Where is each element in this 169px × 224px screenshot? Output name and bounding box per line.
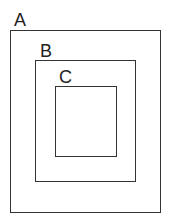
nested-sets-diagram: A B C xyxy=(0,0,169,224)
set-c-rectangle xyxy=(55,86,117,157)
set-c-label: C xyxy=(59,68,72,86)
set-b-label: B xyxy=(40,42,52,60)
set-a-label: A xyxy=(14,11,26,29)
